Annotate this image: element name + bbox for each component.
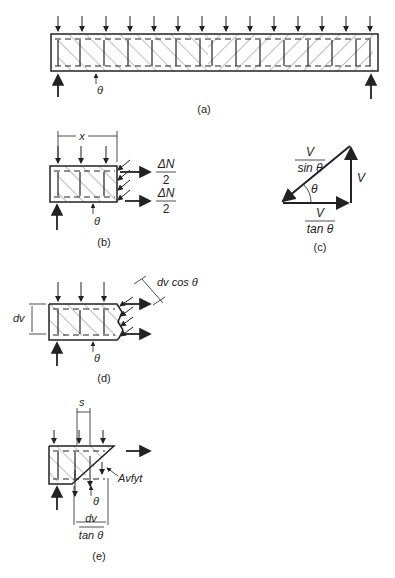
hyp-den: sin θ: [297, 161, 323, 175]
caption-d: (d): [97, 372, 110, 384]
depth-label: dv: [13, 312, 26, 324]
base-num: V: [316, 206, 325, 220]
delta-n-bot-num: ΔN: [157, 186, 175, 200]
angle-label: θ: [311, 182, 318, 196]
length-label: x: [78, 130, 85, 142]
stirrup-force-label: Avfyt: [117, 472, 143, 484]
proj-num: dv: [85, 512, 98, 524]
panel-b-segment: x ΔN 2 ΔN 2 θ (b): [50, 130, 176, 248]
angle-label: θ: [94, 215, 100, 227]
delta-n-top-den: 2: [163, 173, 170, 187]
figure-canvas: θ (a) x ΔN 2: [0, 0, 395, 578]
angle-label: θ: [97, 84, 103, 96]
spacing-label: s: [79, 396, 85, 408]
delta-n-bot-den: 2: [163, 202, 170, 216]
caption-e: (e): [92, 550, 105, 562]
angle-label: θ: [93, 495, 99, 507]
hyp-num: V: [306, 145, 315, 159]
panel-c-force-triangle: θ V sin θ V V tan θ (c): [283, 145, 366, 253]
panel-d-strut: dv dv cos θ θ (d): [13, 276, 198, 384]
caption-a: (a): [197, 103, 210, 115]
proj-den: tan θ: [79, 529, 103, 541]
vertical-label: V: [357, 171, 366, 185]
panel-e-crack: s Avfyt θ dv tan θ (e): [49, 396, 150, 562]
caption-c: (c): [314, 241, 327, 253]
load-arrows: [58, 16, 370, 31]
angle-label: θ: [94, 352, 100, 364]
base-den: tan θ: [307, 222, 334, 236]
caption-b: (b): [97, 236, 110, 248]
panel-a-beam: θ (a): [51, 16, 378, 115]
width-label: dv cos θ: [157, 276, 198, 288]
delta-n-top-num: ΔN: [157, 157, 175, 171]
